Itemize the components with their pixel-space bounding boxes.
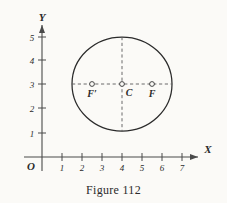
x-tick-label-4: 4 [120, 163, 125, 173]
figure-caption: Figure 112 [0, 183, 227, 198]
ellipse-figure: 1 2 3 4 5 6 7 X 1 2 3 4 5 Y O [0, 0, 227, 203]
x-tick-label-5: 5 [140, 163, 145, 173]
y-axis-label: Y [39, 11, 47, 23]
y-tick-label-1: 1 [30, 129, 35, 139]
center-marker [120, 82, 125, 87]
origin-label: O [27, 160, 35, 172]
x-axis-group: 1 2 3 4 5 6 7 X [24, 143, 212, 173]
y-tick-label-3: 3 [29, 80, 35, 90]
y-tick-label-4: 4 [30, 56, 35, 66]
focus-right-marker [150, 82, 155, 87]
y-tick-label-5: 5 [30, 33, 35, 43]
x-axis-arrowhead [190, 154, 198, 160]
focus-right-label: F [148, 88, 156, 99]
y-tick-label-2: 2 [30, 104, 35, 114]
x-tick-label-7: 7 [180, 163, 185, 173]
figure-page: 1 2 3 4 5 6 7 X 1 2 3 4 5 Y O [0, 0, 227, 203]
focus-left-marker [90, 82, 95, 87]
x-tick-label-2: 2 [80, 163, 85, 173]
x-tick-label-6: 6 [160, 163, 165, 173]
x-axis-label: X [203, 143, 212, 155]
y-axis-arrowhead [39, 25, 45, 33]
y-axis-group: 1 2 3 4 5 Y [29, 11, 47, 171]
x-tick-label-3: 3 [99, 163, 105, 173]
center-label: C [126, 87, 133, 98]
x-tick-label-1: 1 [60, 163, 65, 173]
focus-left-label: F′ [86, 88, 97, 99]
